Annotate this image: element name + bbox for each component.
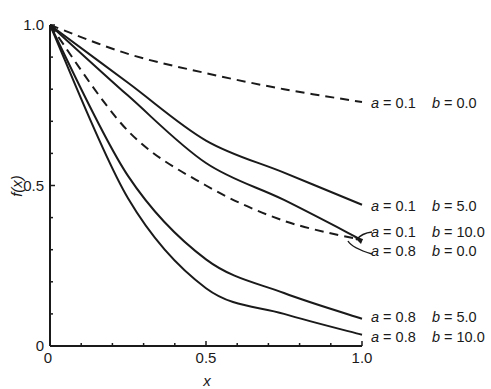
x-tick-label: 1.0 — [352, 349, 373, 366]
arrow-head-icon — [354, 237, 363, 244]
series-line-4 — [50, 25, 362, 319]
series-label: a = 0.1 b = 5.0 — [371, 198, 477, 214]
y-tick-label: 0 — [36, 337, 44, 354]
x-axis-title: x — [202, 372, 211, 389]
series-label: a = 0.8 b = 5.0 — [371, 309, 477, 325]
axes: 00.51.000.51.0 — [23, 16, 372, 366]
series-label: a = 0.1 b = 0.0 — [371, 95, 477, 111]
series-label: a = 0.8 b = 10.0 — [371, 329, 485, 345]
x-tick-label: 0.5 — [196, 349, 217, 366]
series-label: a = 0.8 b = 0.0 — [371, 243, 477, 259]
y-tick-label: 1.0 — [23, 16, 44, 33]
series-line-5 — [50, 25, 362, 335]
series-line-0 — [50, 25, 362, 102]
y-tick-label: 0.5 — [23, 177, 44, 194]
curves — [50, 25, 372, 335]
series-labels: a = 0.1 b = 0.0a = 0.1 b = 5.0a = 0.1 b … — [371, 95, 485, 345]
series-line-1 — [50, 25, 362, 205]
x-tick-label: 0 — [44, 349, 52, 366]
series-label: a = 0.1 b = 10.0 — [371, 224, 485, 240]
line-chart: 00.51.000.51.0 a = 0.1 b = 0.0a = 0.1 b … — [0, 0, 491, 389]
y-axis-title: f(x) — [8, 175, 25, 197]
